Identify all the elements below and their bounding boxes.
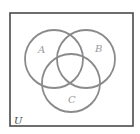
set-b-label: B [94, 43, 102, 54]
set-c-label: C [68, 94, 76, 105]
universe-frame [10, 13, 133, 126]
set-a-label: A [37, 44, 45, 55]
universe-label: U [14, 115, 23, 126]
venn-diagram: A B C U [0, 0, 140, 134]
